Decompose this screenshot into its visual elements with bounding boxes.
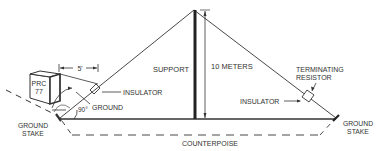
angle-arc-left bbox=[54, 105, 70, 112]
support-label: SUPPORT bbox=[153, 65, 190, 74]
distance-label: 5' bbox=[77, 65, 82, 72]
antenna-wire-left bbox=[60, 10, 194, 118]
angle-label: 90° bbox=[78, 106, 88, 113]
ground-label: GROUND bbox=[92, 104, 123, 111]
radio-label-line2: 77 bbox=[35, 88, 43, 95]
height-label: 10 METERS bbox=[211, 62, 253, 71]
ground-stake-left-line2: STAKE bbox=[22, 130, 44, 137]
ground-stake-right-line1: GROUND bbox=[343, 120, 373, 127]
ground-leader bbox=[76, 92, 90, 104]
antenna-diagram: PRC 77 5' INSULATOR GROUND 90° GROUND ST… bbox=[0, 0, 380, 151]
angle-arc bbox=[74, 110, 77, 119]
ground-stake-left-line1: GROUND bbox=[18, 122, 48, 129]
radio-label-line1: PRC bbox=[32, 80, 47, 87]
counterpoise-label: COUNTERPOISE bbox=[182, 140, 238, 147]
height-dimension bbox=[200, 10, 210, 118]
counterpoise-dashed-line bbox=[62, 121, 333, 135]
insulator-left-label: INSULATOR bbox=[123, 89, 162, 96]
terminating-resistor-line2: RESISTOR bbox=[296, 74, 332, 81]
terminating-resistor-line1: TERMINATING bbox=[296, 66, 344, 73]
ground-stake-right-line2: STAKE bbox=[347, 128, 369, 135]
insulator-right-label: INSULATOR bbox=[240, 98, 279, 105]
